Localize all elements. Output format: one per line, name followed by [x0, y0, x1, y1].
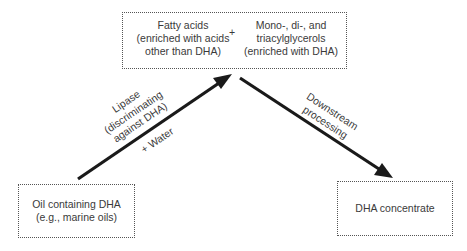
arrows-layer: [0, 0, 467, 251]
arrow-head-icon: [374, 163, 393, 178]
